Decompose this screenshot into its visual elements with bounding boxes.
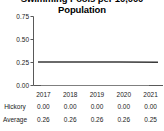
data-table: 2017 2018 2019 2020 2021 Hickory 0.00 0.… — [0, 88, 164, 126]
x-tick-label-2021: 2021 — [137, 88, 164, 100]
x-tick-label-2018: 2018 — [57, 88, 84, 100]
cell-average-2017: 0.26 — [30, 113, 57, 126]
table-row: Hickory 0.00 0.00 0.00 0.00 0.00 — [0, 100, 164, 113]
x-tick-label-2017: 2017 — [30, 88, 57, 100]
swimming-pools-chart: Swimming Pools per 10,000 Population 0.7… — [0, 0, 164, 131]
cell-hickory-2017: 0.00 — [30, 100, 57, 113]
series-label-hickory: Hickory — [0, 100, 30, 113]
cell-average-2019: 0.26 — [84, 113, 111, 126]
cell-average-2021: 0.25 — [137, 113, 164, 126]
plot-area — [0, 16, 164, 90]
cell-hickory-2019: 0.00 — [84, 100, 111, 113]
year-row-spacer — [0, 88, 30, 100]
x-tick-label-2019: 2019 — [84, 88, 111, 100]
table-row-years: 2017 2018 2019 2020 2021 — [0, 88, 164, 100]
table-row: Average 0.26 0.26 0.26 0.26 0.25 — [0, 113, 164, 126]
x-tick-label-2020: 2020 — [110, 88, 137, 100]
cell-hickory-2018: 0.00 — [57, 100, 84, 113]
cell-average-2018: 0.26 — [57, 113, 84, 126]
plot-svg — [0, 16, 164, 90]
cell-average-2020: 0.26 — [110, 113, 137, 126]
series-label-average: Average — [0, 113, 30, 126]
cell-hickory-2020: 0.00 — [110, 100, 137, 113]
cell-hickory-2021: 0.00 — [137, 100, 164, 113]
